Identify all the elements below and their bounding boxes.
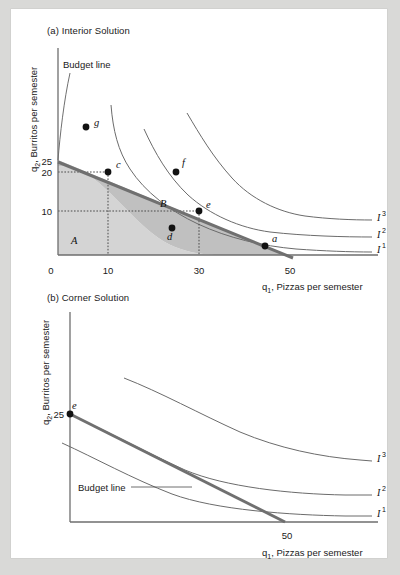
panel-b-title: (b) Corner Solution [47, 292, 129, 303]
panel-a-title: (a) Interior Solution [47, 25, 130, 36]
figure-root: (a) Interior Solution (b) Corner Solutio… [0, 0, 400, 575]
figure-sheet [11, 9, 387, 558]
